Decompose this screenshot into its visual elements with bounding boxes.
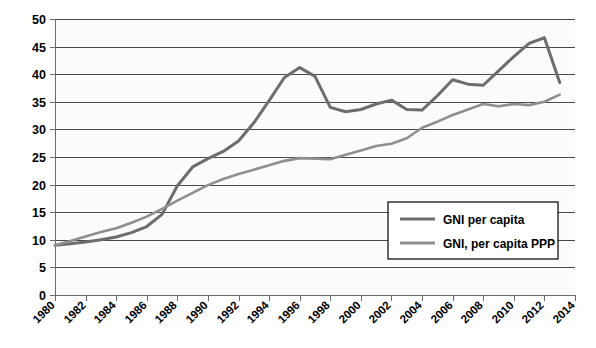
y-tick-label: 40 (32, 68, 46, 82)
y-tick-label: 50 (32, 13, 46, 27)
y-tick-label: 25 (32, 151, 46, 165)
x-tick-label: 1990 (183, 299, 210, 326)
y-tick-label: 30 (32, 123, 46, 137)
x-tick-label: 2002 (366, 299, 393, 326)
x-tick-label: 2000 (336, 299, 363, 326)
x-tick-label: 2014 (550, 299, 577, 326)
x-axis-tick-labels: 1980198219841986198819901992199419961998… (30, 299, 577, 326)
x-tick-label: 1998 (305, 299, 332, 326)
x-tick-label: 1996 (275, 299, 302, 326)
y-tick-label: 0 (39, 289, 46, 303)
x-tick-label: 2006 (428, 299, 455, 326)
x-tick-label: 2012 (519, 299, 546, 326)
line-chart: 05101520253035404550 1980198219841986198… (0, 0, 596, 348)
y-axis-tick-labels: 05101520253035404550 (32, 13, 46, 303)
legend-label-1: GNI per capita (443, 213, 525, 227)
x-tick-label: 1982 (61, 299, 88, 326)
chart-legend: GNI per capitaGNI, per capita PPP (388, 202, 558, 259)
x-tick-label: 2010 (489, 299, 516, 326)
x-tick-label: 1992 (214, 299, 241, 326)
legend-label-2: GNI, per capita PPP (443, 237, 555, 251)
y-tick-label: 15 (32, 206, 46, 220)
y-tick-label: 5 (39, 261, 46, 275)
y-tick-label: 10 (32, 234, 46, 248)
x-tick-label: 1980 (30, 299, 57, 326)
x-tick-label: 2008 (458, 299, 485, 326)
y-tick-label: 45 (32, 41, 46, 55)
x-tick-label: 1988 (152, 299, 179, 326)
x-tick-label: 2004 (397, 299, 424, 326)
x-tick-label: 1984 (91, 299, 118, 326)
y-tick-label: 20 (32, 179, 46, 193)
x-tick-label: 1994 (244, 299, 271, 326)
chart-container: 05101520253035404550 1980198219841986198… (0, 0, 596, 348)
x-tick-label: 1986 (122, 299, 149, 326)
y-tick-label: 35 (32, 96, 46, 110)
